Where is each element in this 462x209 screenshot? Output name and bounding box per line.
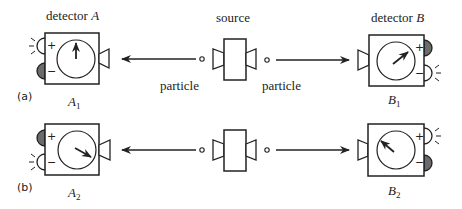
detector-funnel-icon	[99, 140, 110, 160]
row-a: + − (a) A1 particle particle	[17, 33, 441, 111]
source-b	[213, 130, 256, 171]
row-b: + − (b) A2	[17, 124, 441, 202]
source-a	[213, 39, 256, 80]
b2-label: B2	[388, 183, 400, 200]
plus-sign: +	[415, 41, 424, 54]
minus-sign: −	[47, 156, 56, 169]
particle-label-left: particle	[160, 78, 199, 93]
detector-b-label: detector B	[371, 10, 424, 25]
detector-funnel-icon	[99, 49, 109, 68]
detector-a2: + −	[29, 124, 110, 175]
detector-a-label: detector A	[46, 8, 99, 23]
a1-label: A1	[67, 94, 80, 111]
detector-funnel-icon	[358, 50, 369, 70]
particle-label-right: particle	[262, 78, 301, 93]
minus-sign: −	[415, 156, 424, 169]
diagram-canvas: detector A source detector B + − (a) A1	[0, 0, 462, 209]
panel-a-label: (a)	[17, 90, 32, 103]
lamp-minus-lit-icon	[29, 154, 45, 170]
particle-dot-icon	[200, 57, 204, 61]
plus-sign: +	[47, 39, 56, 52]
lamp-plus-lit-icon	[29, 38, 45, 54]
detector-b1: + −	[358, 35, 441, 86]
minus-sign: −	[415, 67, 424, 80]
detector-b2: + −	[358, 124, 441, 176]
source-label: source	[216, 10, 250, 25]
lamp-minus-dark-icon	[37, 63, 45, 79]
b1-label: B1	[388, 92, 400, 109]
a2-label: A2	[67, 185, 80, 202]
lamp-minus-lit-icon	[424, 65, 441, 81]
lamp-minus-dark-icon	[424, 155, 432, 171]
particle-dot-icon	[200, 148, 204, 152]
detector-a1: + −	[29, 33, 109, 84]
particle-dot-icon	[265, 58, 269, 62]
lamp-plus-dark-icon	[37, 130, 45, 146]
panel-b-label: (b)	[17, 181, 33, 194]
particle-dot-icon	[265, 148, 269, 152]
lamp-plus-lit-icon	[424, 128, 441, 144]
lamp-plus-dark-icon	[424, 40, 432, 56]
plus-sign: +	[415, 130, 424, 143]
plus-sign: +	[47, 130, 56, 143]
minus-sign: −	[47, 65, 56, 78]
detector-funnel-icon	[358, 140, 368, 160]
